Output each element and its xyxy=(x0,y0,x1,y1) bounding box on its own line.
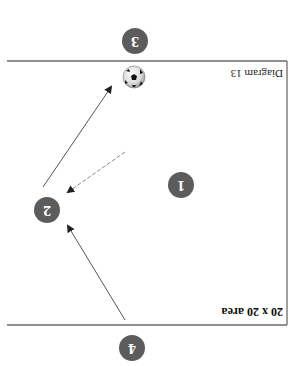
player-4: 4 xyxy=(119,335,145,361)
run-arrow-4-to-2 xyxy=(68,226,125,320)
player-2-label: 2 xyxy=(43,203,51,217)
player-3-label: 3 xyxy=(131,34,139,48)
diagram-caption: Diagram 13 xyxy=(230,68,283,80)
player-1-label: 1 xyxy=(177,178,185,192)
player-2: 2 xyxy=(34,197,60,223)
soccer-ball-icon xyxy=(123,66,145,88)
area-title: 20 x 20 area xyxy=(222,305,283,319)
player-4-label: 4 xyxy=(128,341,136,355)
pass-arrow-to-2 xyxy=(68,152,125,192)
player-1: 1 xyxy=(168,172,194,198)
run-arrow-2-to-ball xyxy=(43,87,111,187)
field-area xyxy=(7,61,287,325)
drill-diagram: Diagram 13 20 x 20 area 3 1 2 4 xyxy=(0,0,304,366)
player-3: 3 xyxy=(122,28,148,54)
